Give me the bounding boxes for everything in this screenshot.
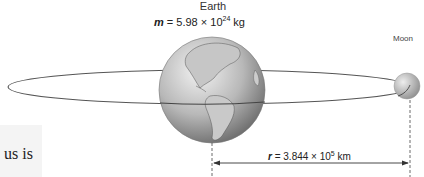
earth-globe <box>159 37 265 143</box>
distance-unit: km <box>335 151 351 162</box>
distance-value: = 3.844 × 10 <box>272 151 331 162</box>
mass-value: = 5.98 × 10 <box>164 16 223 28</box>
mass-unit: kg <box>230 16 245 28</box>
moon-label: Moon <box>393 34 413 43</box>
distance-label: r = 3.844 × 105 km <box>268 151 351 162</box>
earth-mass-label: m = 5.98 × 1024 kg <box>154 16 284 28</box>
moon-globe <box>394 73 420 99</box>
earth-label: Earth <box>178 0 248 12</box>
mass-symbol: m <box>154 16 164 28</box>
side-text-fragment: us is <box>4 145 33 163</box>
